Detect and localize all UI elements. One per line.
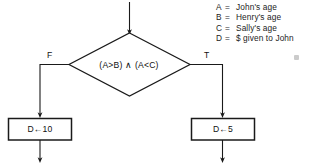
legend-meaning: Henry's age <box>236 12 281 22</box>
flowchart-diagram: (A>B) ∧ (A<C) F T D←10 D←5 A=John's age … <box>0 0 320 165</box>
legend-equals: = <box>225 2 236 12</box>
legend-item: D=$ given to John <box>216 33 320 43</box>
scan-artifact-speck <box>294 55 299 60</box>
legend-meaning: Sally's age <box>236 23 277 33</box>
legend-equals: = <box>225 33 236 43</box>
legend-variable: D <box>216 33 225 43</box>
process-true-text: D←5 <box>191 124 255 134</box>
true-branch-connector <box>190 65 223 116</box>
legend-variable: C <box>216 23 225 33</box>
false-branch-label: F <box>47 50 52 60</box>
legend-item: B=Henry's age <box>216 12 320 22</box>
legend-equals: = <box>225 12 236 22</box>
legend-item: A=John's age <box>216 2 320 12</box>
legend-meaning: John's age <box>236 2 277 12</box>
legend-variable: A <box>216 2 225 12</box>
process-false-text: D←10 <box>8 124 72 134</box>
legend-meaning: $ given to John <box>236 33 294 43</box>
true-branch-label: T <box>204 50 209 60</box>
decision-condition-text: (A>B) ∧ (A<C) <box>78 60 180 70</box>
legend-variable: B <box>216 12 225 22</box>
false-branch-connector <box>40 65 69 116</box>
legend-item: C=Sally's age <box>216 23 320 33</box>
legend-equals: = <box>225 23 236 33</box>
variable-legend: A=John's age B=Henry's age C=Sally's age… <box>216 2 320 44</box>
